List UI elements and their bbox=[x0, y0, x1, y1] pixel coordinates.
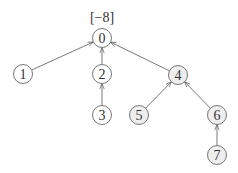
tree-node-2: 2 bbox=[93, 65, 112, 84]
edge-1-to-0 bbox=[32, 42, 94, 70]
tree-node-0: 0 bbox=[93, 29, 112, 48]
node-label: 4 bbox=[175, 68, 182, 83]
tree-node-4: 4 bbox=[169, 66, 188, 85]
tree-node-5: 5 bbox=[130, 106, 149, 125]
root-annotation: [−8] bbox=[90, 10, 114, 25]
node-label: 5 bbox=[136, 108, 143, 123]
tree-node-3: 3 bbox=[93, 106, 112, 125]
edge-5-to-4 bbox=[146, 82, 172, 108]
node-label: 0 bbox=[99, 31, 106, 46]
edge-6-to-4 bbox=[185, 82, 211, 108]
node-label: 3 bbox=[99, 108, 106, 123]
node-label: 7 bbox=[214, 148, 221, 163]
node-label: 6 bbox=[214, 108, 221, 123]
edge-4-to-0 bbox=[111, 42, 170, 71]
union-find-tree-diagram: 01234567 [−8] bbox=[0, 0, 238, 173]
tree-node-6: 6 bbox=[208, 106, 227, 125]
nodes: 01234567 bbox=[14, 29, 227, 165]
tree-node-1: 1 bbox=[14, 65, 33, 84]
node-label: 2 bbox=[99, 67, 106, 82]
node-label: 1 bbox=[20, 67, 27, 82]
edges bbox=[32, 42, 217, 146]
tree-node-7: 7 bbox=[208, 146, 227, 165]
